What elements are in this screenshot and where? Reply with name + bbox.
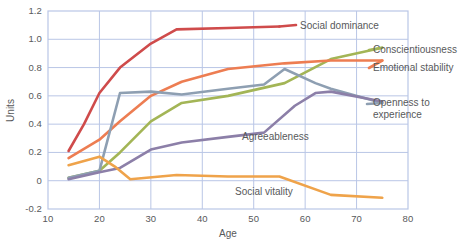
- series-label-2: Emotional stability: [373, 62, 454, 74]
- y-tick-label: 1.2: [8, 5, 42, 16]
- plot-border: [48, 11, 408, 209]
- y-tick-label: 1.0: [8, 33, 42, 44]
- x-axis-title: Age: [200, 228, 256, 239]
- series-line-3: [69, 69, 383, 178]
- series-label-3: Openness to experience: [373, 97, 430, 120]
- line-chart: -0.200.20.40.60.81.01.2 1020304050607080…: [0, 0, 472, 248]
- leader-line-social-dominance: [279, 25, 296, 27]
- x-tick-label: 30: [136, 213, 166, 224]
- grid-lines: [48, 11, 408, 209]
- x-tick-label: 70: [342, 213, 372, 224]
- y-tick-label: 0: [8, 175, 42, 186]
- y-axis-title: Units: [5, 85, 16, 137]
- y-tick-label: 0.8: [8, 62, 42, 73]
- x-tick-label: 50: [239, 213, 269, 224]
- x-tick-label: 20: [84, 213, 114, 224]
- y-tick-label: 0.2: [8, 146, 42, 157]
- series-label-1: Conscientiousness: [373, 44, 457, 56]
- series-line-5: [69, 157, 383, 198]
- series-label-5: Social vitality: [235, 186, 293, 198]
- x-tick-label: 40: [187, 213, 217, 224]
- series-label-0: Social dominance: [300, 20, 379, 32]
- plot-area: [0, 0, 472, 248]
- series-lines: [69, 27, 383, 198]
- series-label-4: Agreeableness: [242, 131, 309, 143]
- x-tick-label: 60: [290, 213, 320, 224]
- x-tick-label: 80: [393, 213, 423, 224]
- plot-frame: [48, 11, 408, 209]
- x-tick-label: 10: [33, 213, 63, 224]
